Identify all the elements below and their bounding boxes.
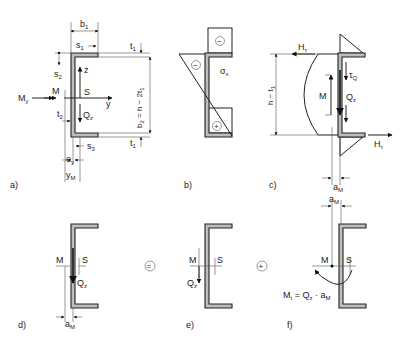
label-b1: b1 bbox=[80, 19, 89, 30]
caption-f: f) bbox=[287, 320, 293, 330]
label-t1-top: t1 bbox=[130, 41, 137, 52]
label-Qz: Qz bbox=[83, 110, 93, 121]
caption-a: a) bbox=[10, 180, 18, 190]
label-Mt-formula: Mt = Qz · aM bbox=[283, 290, 330, 301]
panel-f: aM M S Mt = Qz · aM f) bbox=[283, 194, 366, 330]
label-b2: b2 = h − 2t1 bbox=[135, 87, 145, 128]
label-My: My bbox=[18, 93, 29, 104]
label-M: M bbox=[321, 255, 329, 265]
label-S: S bbox=[346, 255, 352, 265]
label-yM: yM bbox=[66, 170, 76, 181]
channel-section-diagram: b1 s1 t1 t1 s2 z S y My M Qz t2 bbox=[0, 0, 407, 343]
label-M: M bbox=[52, 86, 60, 96]
label-M: M bbox=[56, 255, 64, 265]
label-Qz: Qz bbox=[77, 278, 87, 289]
label-S: S bbox=[82, 255, 88, 265]
label-aM: aM bbox=[329, 194, 339, 205]
caption-b: b) bbox=[184, 180, 192, 190]
label-aM: aM bbox=[333, 182, 343, 193]
label-sigma-x: σx bbox=[220, 66, 229, 77]
label-y: y bbox=[106, 99, 111, 109]
label-M: M bbox=[319, 91, 327, 101]
label-Qz: Qz bbox=[346, 92, 356, 103]
label-Ht-top: Hτ bbox=[298, 42, 308, 53]
plus-symbol: + bbox=[259, 262, 264, 271]
panel-e: M S Qz e) bbox=[186, 224, 232, 330]
label-tauQ: τQ bbox=[349, 70, 358, 81]
label-Ht-bottom: Hτ bbox=[374, 139, 384, 150]
label-Qz: Qz bbox=[187, 278, 197, 289]
caption-e: e) bbox=[186, 320, 194, 330]
label-S: S bbox=[84, 87, 90, 97]
sign-minus-left: − bbox=[193, 61, 198, 70]
panel-c: h − t1 Hτ Hτ τQ Qz M aM c) bbox=[266, 34, 392, 193]
label-s2: s2 bbox=[54, 69, 63, 80]
sign-minus-top: − bbox=[217, 37, 222, 46]
panel-a: b1 s1 t1 t1 s2 z S y My M Qz t2 bbox=[10, 19, 150, 190]
label-S: S bbox=[217, 255, 223, 265]
panel-b: − − + σx b) bbox=[179, 28, 232, 190]
label-z: z bbox=[84, 65, 89, 75]
label-t2: t2 bbox=[57, 109, 64, 120]
label-aM: aM bbox=[65, 319, 75, 330]
label-t1-bottom: t1 bbox=[130, 138, 137, 149]
label-s1: s1 bbox=[76, 40, 85, 51]
label-s3: s3 bbox=[87, 141, 96, 152]
label-h-t1: h − t1 bbox=[266, 85, 276, 105]
equals-symbol: = bbox=[147, 262, 152, 271]
sign-plus: + bbox=[214, 122, 219, 131]
caption-c: c) bbox=[269, 180, 277, 190]
caption-d: d) bbox=[18, 320, 26, 330]
label-M: M bbox=[189, 255, 197, 265]
panel-d: M S Qz aM d) bbox=[18, 224, 98, 330]
